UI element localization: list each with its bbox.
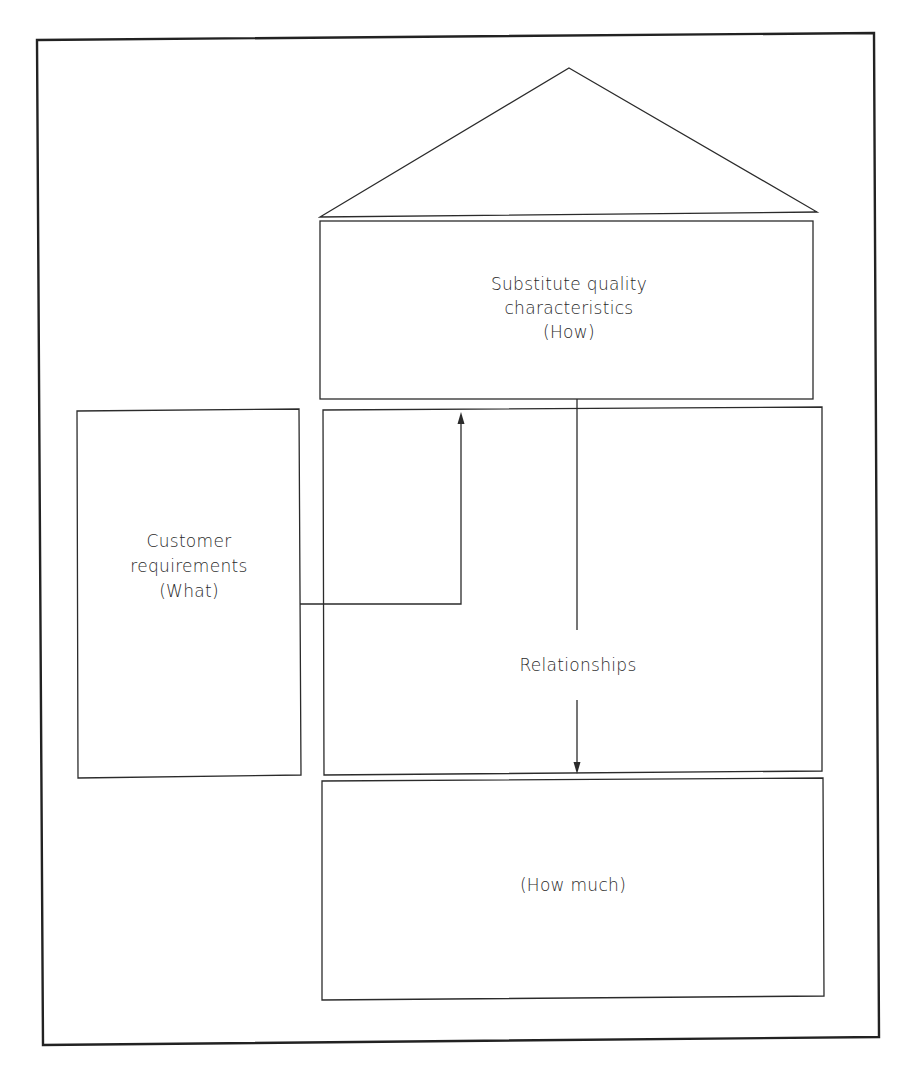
how-much-box: (How much) — [322, 778, 824, 1000]
relationships-box: Relationships — [323, 407, 822, 775]
how-to-how-much-connector — [574, 399, 581, 774]
how-box-line-2: characteristics — [504, 298, 633, 318]
how-box-line-1: Substitute quality — [491, 274, 647, 294]
relationships-label: Relationships — [519, 655, 636, 675]
roof-triangle — [320, 68, 817, 217]
how-much-label: (How much) — [520, 875, 626, 895]
house-of-quality-diagram: Substitute quality characteristics (How)… — [0, 0, 913, 1085]
what-box-line-3: (What) — [159, 581, 219, 601]
what-box-line-2: requirements — [130, 556, 247, 576]
what-to-how-connector — [300, 412, 465, 604]
how-box-line-3: (How) — [543, 322, 595, 342]
how-box: Substitute quality characteristics (How) — [320, 221, 813, 399]
up-arrowhead-icon — [458, 412, 465, 424]
down-arrowhead-icon — [574, 762, 581, 774]
what-box: Customer requirements (What) — [77, 409, 301, 778]
what-box-line-1: Customer — [147, 531, 232, 551]
relationships-box-border — [323, 407, 822, 775]
what-to-how-line — [300, 422, 461, 604]
